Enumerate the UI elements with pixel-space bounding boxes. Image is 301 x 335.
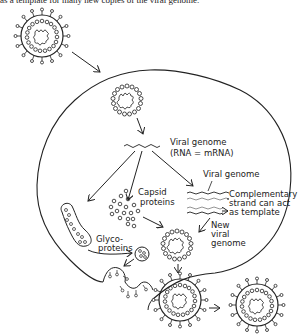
cell-membrane [37, 70, 291, 299]
assembling-nucleocapsid [161, 229, 193, 261]
incoming-virion [14, 8, 70, 64]
label-rna-mrna: (RNA = mRNA) [170, 148, 234, 158]
virus-replication-diagram: Viral genome (RNA = mRNA) Capsid protein… [0, 0, 301, 335]
label-viral-genome: Viral genome [170, 137, 226, 147]
entry-arrow [72, 52, 100, 72]
glycoprotein-vesicle [61, 203, 91, 246]
released-virion [229, 277, 285, 333]
label-genome: genome [211, 238, 246, 248]
nucleocapsid [111, 84, 143, 116]
label-as-template: as template [229, 207, 280, 217]
label-proteins: proteins [140, 197, 175, 207]
label-proteins-2: proteins [98, 243, 133, 253]
transport-vesicle [135, 247, 149, 261]
capsid-protein-cluster [109, 189, 140, 228]
viral-genome-rna [124, 145, 160, 148]
label-viral-genome-2: Viral genome [203, 169, 259, 179]
label-capsid: Capsid [138, 187, 167, 197]
